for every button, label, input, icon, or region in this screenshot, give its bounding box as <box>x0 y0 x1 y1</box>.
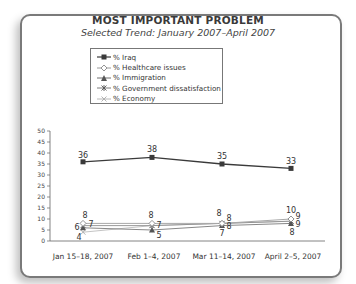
data-label-iraq-feb: 38 <box>147 145 157 154</box>
data-point-marker <box>150 155 155 160</box>
data-label-iraq-jan: 36 <box>78 151 88 160</box>
data-label-government-jan: 7 <box>88 220 93 229</box>
y-tick-label: 15 <box>37 204 45 211</box>
data-label-immigration-mar: 7 <box>219 229 224 238</box>
series-line <box>83 221 291 232</box>
data-label-government-feb: 7 <box>156 221 161 230</box>
x-labels: Jan 15–18, 2007 Feb 1–4, 2007 Mar 11–14,… <box>52 252 322 261</box>
y-tick-label: 45 <box>37 138 45 145</box>
data-label-healthcare-feb: 8 <box>148 211 153 220</box>
series-line <box>83 157 291 168</box>
y-ticks: 05101520253035404550 <box>37 127 50 244</box>
data-label-immigration-feb: 5 <box>156 231 161 240</box>
y-tick-label: 30 <box>37 171 45 178</box>
x-label-jan: Jan 15–18, 2007 <box>52 252 114 261</box>
data-label-iraq-apr: 33 <box>286 157 296 166</box>
data-label-economy-apr: 9 <box>295 220 300 229</box>
plot-area: 05101520253035404550 36 38 35 33 8 7 6 4… <box>0 0 356 284</box>
x-label-mar: Mar 11–14, 2007 <box>192 252 255 261</box>
y-tick-label: 5 <box>41 226 45 233</box>
y-tick-label: 40 <box>37 149 45 156</box>
data-label-iraq-mar: 35 <box>217 152 227 161</box>
y-tick-label: 50 <box>37 127 45 134</box>
y-tick-label: 25 <box>37 182 45 189</box>
data-label-healthcare-mar: 8 <box>216 209 221 218</box>
data-label-healthcare-jan: 8 <box>82 211 87 220</box>
data-point-marker <box>220 162 225 167</box>
data-label-economy-jan: 4 <box>76 233 81 242</box>
data-label-economy-mar: 8 <box>226 222 231 231</box>
x-label-apr: April 2–5, 2007 <box>265 252 322 261</box>
x-label-feb: Feb 1–4, 2007 <box>128 252 181 261</box>
data-point-marker <box>289 166 294 171</box>
data-point-marker <box>81 159 86 164</box>
y-tick-label: 20 <box>37 193 45 200</box>
data-label-immigration-apr: 8 <box>289 228 294 237</box>
y-tick-label: 10 <box>37 215 45 222</box>
series-line <box>83 219 291 223</box>
y-tick-label: 0 <box>41 237 45 244</box>
y-tick-label: 35 <box>37 160 45 167</box>
series-group <box>80 155 294 235</box>
data-label-immigration-jan: 6 <box>74 223 79 232</box>
